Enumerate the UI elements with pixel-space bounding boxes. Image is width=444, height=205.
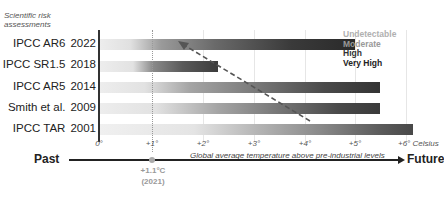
timeline-past: Past: [34, 152, 59, 166]
legend: Undetectable Moderate High Very High: [343, 30, 396, 68]
timeline-future: Future: [407, 152, 444, 166]
tick-3: +3°: [248, 139, 260, 148]
legend-very-high: Very High: [343, 59, 396, 69]
tick-0: 0°: [95, 139, 103, 148]
tick-4: +4°: [299, 139, 311, 148]
tick-6: +6° Celsius: [398, 139, 439, 148]
arrow-right-icon: [398, 156, 405, 164]
tick-2: +2°: [197, 139, 209, 148]
current-marker-label: +1.1°C (2021): [136, 165, 170, 187]
tick-5: +5°: [349, 139, 361, 148]
tick-1: +1°: [146, 139, 158, 148]
timeline-line: [69, 159, 399, 161]
current-marker-dot: [149, 157, 155, 163]
